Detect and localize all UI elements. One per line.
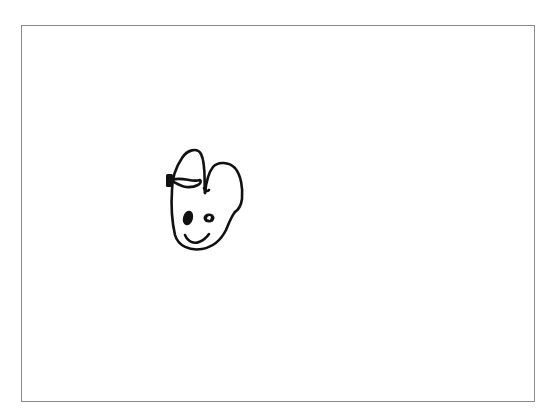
smile [185, 234, 209, 243]
right-ear [205, 163, 242, 212]
left-eye [181, 209, 195, 226]
canvas [0, 0, 551, 411]
bow-knot [166, 174, 173, 187]
left-ear-loop [172, 150, 235, 249]
bow-line [172, 179, 201, 187]
bunny-drawing [0, 0, 551, 411]
